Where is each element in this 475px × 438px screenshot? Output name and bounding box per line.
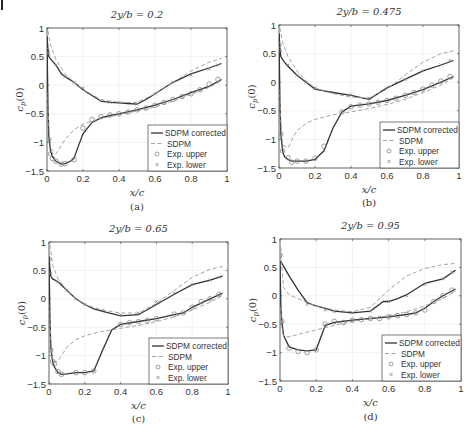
y-tick-label: 0 bbox=[41, 293, 46, 304]
legend-entry-label: Exp. lower bbox=[399, 157, 438, 167]
x-tick-label: 1 bbox=[458, 383, 463, 394]
y-tick-label: −0.5 bbox=[257, 105, 276, 116]
legend-entry-label: Exp. upper bbox=[401, 359, 441, 369]
chart-panel-a: 00.20.40.60.8110.50−0.5−1−1.52y/b = 0.2x… bbox=[14, 9, 230, 212]
figure-canvas: 00.20.40.60.8110.50−0.5−1−1.52y/b = 0.2x… bbox=[0, 0, 475, 438]
x-tick-label: 0.6 bbox=[380, 170, 393, 181]
y-tick-label: 1 bbox=[271, 20, 276, 31]
chart-panel-b: 00.20.40.60.8110.50−0.5−1−1.52y/b = 0.47… bbox=[246, 6, 462, 208]
legend-entry-label: Exp. lower bbox=[168, 373, 207, 383]
x-tick-label: 0.4 bbox=[112, 173, 125, 184]
legend-entry-label: Exp. lower bbox=[401, 370, 440, 380]
y-tick-label: 1 bbox=[41, 237, 46, 248]
legend-entry-label: SDPM bbox=[399, 136, 423, 146]
legend-entry-label: Exp. upper bbox=[168, 362, 208, 372]
legend: SDPM correctedSDPMExp. upperExp. lower bbox=[380, 122, 459, 168]
exp-lower-marker bbox=[65, 289, 68, 292]
sdpm-line bbox=[50, 245, 223, 313]
x-tick-label: 1 bbox=[456, 170, 461, 181]
panel-label: (b) bbox=[362, 197, 376, 208]
panel-label: (c) bbox=[132, 413, 146, 424]
panel-label: (d) bbox=[363, 411, 377, 422]
legend-entry-label: SDPM bbox=[401, 349, 425, 359]
x-tick-label: 0.8 bbox=[184, 173, 197, 184]
y-tick-label: −1.5 bbox=[257, 163, 276, 174]
y-tick-label: −1.5 bbox=[25, 166, 44, 177]
panel-label: (a) bbox=[130, 201, 144, 212]
x-tick-label: 0 bbox=[276, 170, 281, 181]
legend-entry-label: Exp. upper bbox=[399, 146, 439, 156]
legend: SDPM correctedSDPMExp. upperExp. lower bbox=[149, 338, 228, 384]
x-axis-label: x/c bbox=[362, 184, 377, 195]
legend-entry-label: Exp. upper bbox=[167, 149, 207, 159]
legend-entry-label: SDPM corrected bbox=[166, 341, 227, 351]
y-tick-label: 0 bbox=[272, 290, 277, 301]
sdpm-corrected-line bbox=[47, 37, 222, 105]
y-tick-label: −1 bbox=[35, 350, 46, 361]
x-axis-label: x/c bbox=[131, 400, 146, 411]
legend-entry-label: SDPM bbox=[168, 352, 192, 362]
x-tick-label: 0.6 bbox=[148, 173, 161, 184]
x-tick-label: 0.8 bbox=[416, 170, 429, 181]
legend-entry-label: Exp. lower bbox=[167, 160, 206, 170]
x-tick-label: 0.6 bbox=[382, 383, 395, 394]
y-tick-label: 0 bbox=[271, 77, 276, 88]
x-tick-label: 0.2 bbox=[308, 170, 321, 181]
y-tick-label: −1 bbox=[33, 137, 44, 148]
chart-panel-c: 00.20.40.60.8110.50−0.5−1−1.52y/b = 0.65… bbox=[16, 223, 231, 424]
x-tick-label: 0.2 bbox=[76, 173, 89, 184]
x-tick-label: 1 bbox=[225, 386, 230, 397]
panel-title: 2y/b = 0.2 bbox=[110, 9, 163, 20]
x-tick-label: 0 bbox=[44, 173, 49, 184]
x-tick-label: 0.2 bbox=[310, 383, 323, 394]
y-tick-label: −0.5 bbox=[258, 319, 277, 330]
legend: SDPM correctedSDPMExp. upperExp. lower bbox=[148, 125, 227, 171]
x-tick-label: 1 bbox=[224, 173, 229, 184]
x-axis-label: x/c bbox=[130, 187, 145, 198]
y-tick-label: 1 bbox=[39, 23, 44, 34]
y-tick-label: −1.5 bbox=[258, 376, 277, 387]
x-axis-label: x/c bbox=[363, 397, 378, 408]
x-tick-label: 0.8 bbox=[418, 383, 431, 394]
y-tick-label: −0.5 bbox=[25, 108, 44, 119]
y-tick-label: −1 bbox=[266, 347, 277, 358]
y-tick-label: −1.5 bbox=[27, 379, 46, 390]
x-tick-label: 0.8 bbox=[186, 386, 199, 397]
panel-title: 2y/b = 0.65 bbox=[108, 223, 168, 234]
x-tick-label: 0.2 bbox=[78, 386, 91, 397]
x-tick-label: 0.6 bbox=[150, 386, 163, 397]
x-tick-label: 0.4 bbox=[346, 383, 359, 394]
legend: SDPM correctedSDPMExp. upperExp. lower bbox=[382, 335, 461, 381]
y-tick-label: −1 bbox=[265, 134, 276, 145]
sdpm-line bbox=[281, 291, 456, 336]
x-tick-label: 0 bbox=[277, 383, 282, 394]
chart-panel-d: 00.20.40.60.8110.50−0.5−1−1.52y/b = 0.95… bbox=[247, 220, 464, 422]
exp-upper-marker bbox=[377, 316, 382, 321]
y-tick-label: 0.5 bbox=[263, 48, 276, 59]
legend-entry-label: SDPM corrected bbox=[165, 128, 226, 138]
y-tick-label: 0.5 bbox=[264, 262, 277, 273]
x-tick-label: 0 bbox=[46, 386, 51, 397]
y-tick-label: 0 bbox=[39, 80, 44, 91]
legend-entry-label: SDPM bbox=[167, 139, 191, 149]
x-tick-label: 0.4 bbox=[114, 386, 127, 397]
exp-upper-marker bbox=[90, 117, 95, 122]
sdpm-corrected-line bbox=[279, 34, 454, 100]
legend-entry-label: SDPM corrected bbox=[397, 125, 458, 135]
y-tick-label: 0.5 bbox=[33, 265, 46, 276]
panel-title: 2y/b = 0.475 bbox=[335, 6, 401, 17]
y-tick-label: −0.5 bbox=[27, 322, 46, 333]
legend-entry-label: SDPM corrected bbox=[399, 338, 460, 348]
y-tick-label: 0.5 bbox=[31, 51, 44, 62]
x-tick-label: 0.4 bbox=[344, 170, 357, 181]
y-tick-label: 1 bbox=[272, 234, 277, 245]
sdpm-corrected-line bbox=[49, 256, 223, 316]
panel-title: 2y/b = 0.95 bbox=[340, 220, 400, 231]
